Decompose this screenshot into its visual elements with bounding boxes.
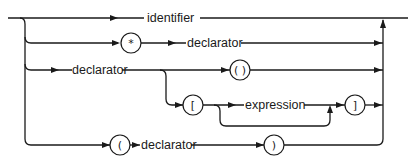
nonterminal-expression: expression [245, 98, 305, 112]
row4-exit [284, 139, 383, 145]
arrow-up-icon [327, 105, 333, 113]
arrow-icon [110, 15, 118, 21]
terminal-rparen-label: ) [272, 139, 276, 152]
branch-row3 [25, 64, 72, 70]
terminal-lparen-label: ( [118, 139, 122, 152]
terminal-lbracket-label: [ [191, 99, 195, 112]
arrow-icon [256, 142, 264, 148]
arrow-icon [175, 102, 183, 108]
terminal-star-label: * [128, 37, 134, 50]
arrow-icon [374, 40, 382, 46]
branch-row3b [160, 70, 183, 105]
arrow-icon [168, 40, 176, 46]
declarator-syntax-diagram: identifier * declarator declarator ( ) [… [0, 0, 416, 165]
terminal-rbracket-label: ] [353, 99, 357, 112]
arrow-icon [102, 142, 110, 148]
arrow-icon [336, 102, 344, 108]
arrow-icon [132, 142, 140, 148]
arrow-icon [374, 102, 382, 108]
arrow-up-icon [380, 19, 386, 28]
arrow-icon [228, 102, 236, 108]
nonterminal-identifier: identifier [147, 11, 194, 25]
branch-row2 [25, 37, 118, 43]
arrow-icon [221, 67, 229, 73]
nonterminal-declarator: declarator [141, 138, 197, 152]
nonterminal-declarator: declarator [187, 36, 243, 50]
nonterminal-declarator: declarator [72, 63, 128, 77]
terminal-func-parens-label: ( ) [234, 64, 246, 77]
arrow-icon [51, 67, 59, 73]
arrow-icon [374, 67, 382, 73]
arrow-icon [112, 40, 120, 46]
